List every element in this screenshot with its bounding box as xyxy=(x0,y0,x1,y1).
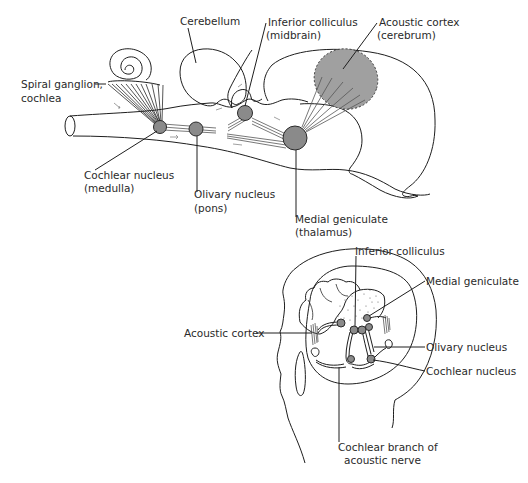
leader-cochlear-nucleus-bottom xyxy=(373,360,425,371)
label-inferior-colliculus-bottom: Inferior colliculus xyxy=(355,245,445,257)
label-medulla: (medulla) xyxy=(84,182,134,194)
pathway-right-ear xyxy=(374,348,386,358)
olivary-nucleus-node xyxy=(189,122,203,136)
label-spiral-ganglion: Spiral ganglion, xyxy=(21,78,103,90)
cochlear-nucleus-node-bottom xyxy=(367,355,375,363)
top-diagram: Cerebellum Inferior colliculus (midbrain… xyxy=(21,15,460,238)
spinal-cord-end xyxy=(65,116,75,136)
label-acoustic-cortex-bottom: Acoustic cortex xyxy=(184,327,265,339)
acoustic-relay-node xyxy=(337,319,345,327)
left-cochlea xyxy=(311,348,319,357)
label-midbrain: (midbrain) xyxy=(266,29,321,41)
stippled-cortex xyxy=(337,289,378,320)
label-cochlear-branch-1: Cochlear branch of xyxy=(338,441,438,453)
label-olivary-nucleus-bottom: Olivary nucleus xyxy=(426,341,507,353)
acoustic-cortex-area xyxy=(306,41,385,118)
olivary-nucleus-node-bottom xyxy=(348,356,355,363)
label-acoustic-cortex-top: Acoustic cortex xyxy=(379,16,460,28)
leader-cerebellum xyxy=(188,28,196,63)
label-cochlear-nucleus-top: Cochlear nucleus xyxy=(84,169,174,181)
inferior-colliculus-node-right xyxy=(358,326,366,334)
label-inferior-colliculus: Inferior colliculus xyxy=(268,16,358,28)
inferior-colliculus-node-left xyxy=(350,326,358,334)
label-thalamus: (thalamus) xyxy=(295,226,352,238)
bottom-diagram: Inferior colliculus Medial geniculate Ac… xyxy=(184,245,519,466)
inferior-colliculus-node xyxy=(238,106,253,121)
label-olivary-nucleus-top: Olivary nucleus xyxy=(194,188,275,200)
label-cerebellum: Cerebellum xyxy=(180,15,240,27)
skull-outline xyxy=(306,266,417,384)
ear-outline xyxy=(295,351,305,395)
brainstem-outline xyxy=(70,99,308,116)
label-cochlea: cochlea xyxy=(21,92,61,104)
medial-geniculate-node-right xyxy=(366,324,373,331)
label-medial-geniculate-top: Medial geniculate xyxy=(295,213,388,225)
label-cochlear-branch-2: acoustic nerve xyxy=(344,454,421,466)
label-medial-geniculate-bottom: Medial geniculate xyxy=(426,275,519,287)
leader-inferior-colliculus xyxy=(245,23,266,106)
spiral-ganglion-fibers xyxy=(108,84,163,124)
cerebellum-outline xyxy=(180,49,246,106)
medial-geniculate-node xyxy=(283,126,307,150)
head-outline xyxy=(277,249,436,463)
cochlea-spiral xyxy=(108,49,160,85)
pathway-nerve xyxy=(316,360,346,368)
brain-fold-lines xyxy=(308,284,348,320)
auditory-pathway-figure: Cerebellum Inferior colliculus (midbrain… xyxy=(0,0,528,483)
label-cerebrum: (cerebrum) xyxy=(377,29,436,41)
label-pons: (pons) xyxy=(194,202,227,214)
label-cochlear-nucleus-bottom: Cochlear nucleus xyxy=(426,365,516,377)
